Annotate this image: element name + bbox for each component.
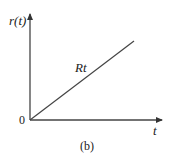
curve-label: Rt [74,60,87,75]
origin-label: 0 [19,113,25,127]
x-axis-label: t [153,123,157,138]
figure-caption: (b) [80,139,94,153]
ramp-line [30,41,134,120]
y-axis-label: r(t) [9,13,26,28]
ramp-function-plot: r(t) t 0 Rt (b) [0,0,179,163]
